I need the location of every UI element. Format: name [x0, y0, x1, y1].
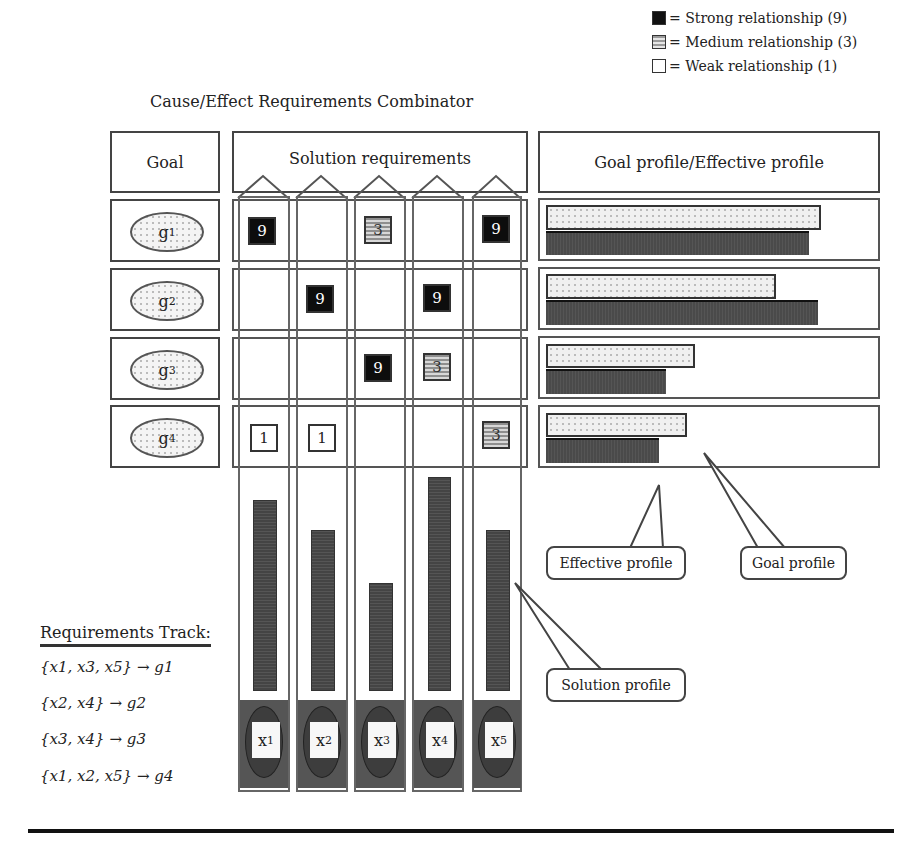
arrow-right-icon: → — [137, 658, 150, 676]
arrow-right-icon: → — [109, 730, 122, 748]
callout-goal-profile: Goal profile — [740, 546, 847, 580]
arrow-right-icon: → — [137, 767, 150, 785]
arrow-right-icon: → — [109, 694, 122, 712]
callout-solution-profile: Solution profile — [546, 668, 686, 702]
track-line-2: {x2, x4} → g2 — [40, 694, 146, 712]
callout-effective-profile: Effective profile — [546, 546, 686, 580]
track-line-3: {x3, x4} → g3 — [40, 730, 146, 748]
requirements-track-title: Requirements Track: — [40, 623, 211, 647]
bottom-rule-divider — [28, 829, 894, 833]
callout-pointers — [0, 0, 921, 849]
track-line-4: {x1, x2, x5} → g4 — [40, 767, 173, 785]
track-line-1: {x1, x3, x5} → g1 — [40, 658, 173, 676]
